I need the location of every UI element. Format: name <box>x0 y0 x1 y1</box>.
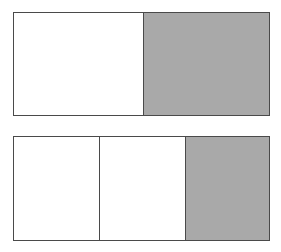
bar-part-unshaded <box>99 137 185 240</box>
bar-part-shaded <box>143 13 269 115</box>
fraction-bar-halves <box>13 12 270 116</box>
bar-part-shaded <box>185 137 269 240</box>
fraction-bar-thirds <box>13 136 270 241</box>
bar-part-unshaded <box>14 137 99 240</box>
bar-part-unshaded <box>14 13 143 115</box>
